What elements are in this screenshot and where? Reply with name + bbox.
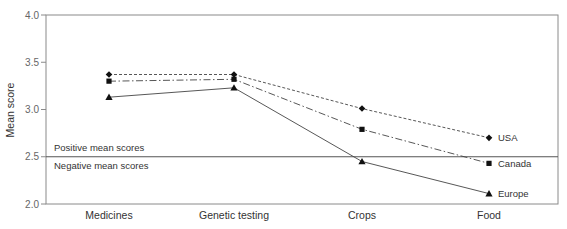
y-tick-label: 3.5 <box>25 57 39 68</box>
square-marker <box>486 161 491 166</box>
plot-frame <box>46 15 558 204</box>
x-category-label: Crops <box>348 209 376 221</box>
negative-scores-label: Negative mean scores <box>54 160 149 171</box>
x-category-label: Medicines <box>85 209 132 221</box>
y-tick-label: 4.0 <box>25 10 39 21</box>
y-tick-label: 3.0 <box>25 104 39 115</box>
series-end-label-europe: Europe <box>498 188 529 199</box>
diamond-marker <box>106 71 113 78</box>
x-category-label: Food <box>477 209 501 221</box>
x-category-label: Genetic testing <box>199 209 269 221</box>
plot-border <box>46 15 558 204</box>
series-line <box>109 88 489 194</box>
series-canada: Canada <box>106 77 532 169</box>
series-group: USACanadaEurope <box>105 71 532 199</box>
y-tick-label: 2.5 <box>25 151 39 162</box>
diamond-marker <box>359 105 366 112</box>
square-marker <box>231 77 236 82</box>
series-end-label-canada: Canada <box>498 158 532 169</box>
reference-line: Positive mean scoresNegative mean scores <box>46 142 558 171</box>
series-line <box>109 75 489 138</box>
series-end-label-usa: USA <box>498 132 518 143</box>
positive-scores-label: Positive mean scores <box>54 142 145 153</box>
y-axis: 2.02.53.03.54.0 <box>25 10 46 210</box>
y-tick-label: 2.0 <box>25 199 39 210</box>
square-marker <box>359 127 364 132</box>
x-axis: MedicinesGenetic testingCropsFood <box>85 209 501 221</box>
series-europe: Europe <box>105 84 528 199</box>
square-marker <box>106 79 111 84</box>
y-axis-title: Mean score <box>4 82 16 137</box>
triangle-marker <box>358 158 365 164</box>
diamond-marker <box>486 135 493 142</box>
line-chart: 2.02.53.03.54.0 MedicinesGenetic testing… <box>0 0 567 229</box>
triangle-marker <box>230 84 237 90</box>
